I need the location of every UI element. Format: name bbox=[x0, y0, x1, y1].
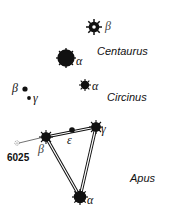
star-icon-cir-gamma bbox=[27, 96, 31, 100]
star-icon-cen-beta bbox=[86, 19, 102, 35]
cluster-icon-6025 bbox=[15, 141, 19, 145]
star-label-aps-alpha: α bbox=[87, 194, 93, 206]
star-label-cen-alpha: α bbox=[76, 55, 82, 67]
star-label-cir-alpha: α bbox=[92, 80, 98, 92]
star-label-cir-beta: β bbox=[12, 82, 18, 94]
constellation-label-apus: Apus bbox=[130, 173, 155, 184]
star-icon-cir-beta bbox=[22, 86, 27, 91]
object-label-6025: 6025 bbox=[7, 153, 29, 163]
star-chart bbox=[0, 0, 169, 218]
star-icon-cir-alpha bbox=[79, 79, 91, 91]
star-icon-cen-alpha bbox=[56, 48, 76, 68]
star-icon-aps-epsilon bbox=[69, 127, 75, 133]
star-label-cen-beta: β bbox=[105, 20, 111, 32]
star-label-cir-gamma: γ bbox=[33, 92, 38, 104]
star-label-aps-epsilon: ε bbox=[67, 134, 72, 146]
constellation-label-circinus: Circinus bbox=[107, 92, 147, 103]
star-icon-aps-alpha bbox=[72, 189, 88, 205]
star-label-aps-beta: β bbox=[38, 143, 44, 155]
constellation-label-centaurus: Centaurus bbox=[97, 46, 148, 57]
star-label-aps-gamma: γ bbox=[101, 123, 106, 135]
